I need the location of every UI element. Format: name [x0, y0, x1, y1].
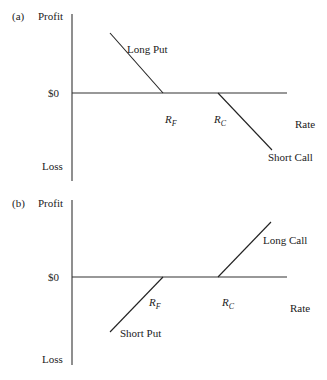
- panel-b-tag: (b): [12, 197, 25, 210]
- panel-b-zero-label: $0: [48, 271, 60, 283]
- panel-a-rf-label: RF: [164, 113, 177, 128]
- panel-b-rate-label: Rate: [290, 302, 310, 314]
- panel-a-long-put-line: [110, 33, 163, 93]
- panel-b: (b) Profit Loss $0 Rate Long Call Short …: [12, 197, 310, 365]
- panel-a-loss-label: Loss: [42, 160, 63, 172]
- payoff-diagram: (a) Profit Loss $0 Rate Long Put Short C…: [0, 0, 327, 380]
- panel-b-long-call-line: [218, 222, 271, 277]
- panel-a-long-put-label: Long Put: [127, 43, 168, 55]
- panel-a: (a) Profit Loss $0 Rate Long Put Short C…: [12, 10, 315, 181]
- panel-a-tag: (a): [12, 10, 25, 23]
- panel-b-loss-label: Loss: [42, 353, 63, 365]
- panel-a-short-call-line: [218, 93, 272, 150]
- panel-b-short-put-label: Short Put: [120, 327, 161, 339]
- panel-a-profit-label: Profit: [38, 10, 63, 22]
- panel-b-long-call-label: Long Call: [263, 234, 307, 246]
- panel-a-rc-label: RC: [213, 113, 227, 128]
- panel-a-zero-label: $0: [48, 87, 60, 99]
- panel-b-profit-label: Profit: [38, 197, 63, 209]
- panel-b-rf-label: RF: [148, 296, 161, 311]
- panel-b-rc-label: RC: [221, 296, 235, 311]
- panel-a-rate-label: Rate: [295, 118, 315, 130]
- panel-a-short-call-label: Short Call: [268, 151, 313, 163]
